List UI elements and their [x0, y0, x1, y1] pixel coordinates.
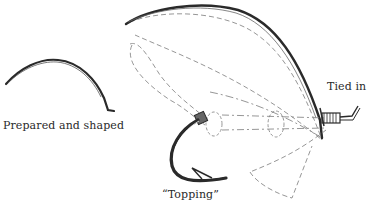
topping-label: “Topping” [162, 188, 219, 201]
prepared-label: Prepared and shaped [3, 119, 124, 132]
tied-in-label: Tied in [327, 80, 366, 93]
wing-outline-icon [130, 14, 322, 140]
fly-body-icon [206, 111, 326, 198]
hook-icon [171, 111, 226, 180]
tie-in-wrap-icon [320, 106, 360, 126]
topping-feather-icon [126, 6, 322, 138]
prepared-feather-icon [6, 60, 114, 111]
fly-diagram [0, 0, 369, 205]
